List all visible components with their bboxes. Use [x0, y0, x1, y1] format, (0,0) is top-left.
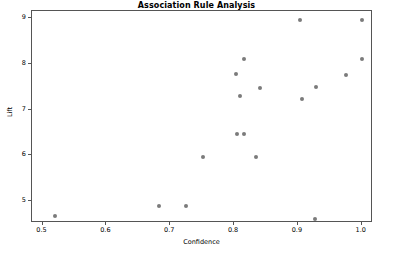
data-point: [201, 155, 205, 159]
x-axis-tick-mark: [361, 222, 362, 225]
y-axis-tick-label: 5: [14, 196, 26, 204]
data-point: [258, 86, 262, 90]
data-point: [242, 57, 246, 61]
data-point: [314, 85, 318, 89]
y-axis-tick-label: 7: [14, 105, 26, 113]
data-point: [360, 18, 364, 22]
data-point: [360, 57, 364, 61]
x-axis-tick-label: 0.6: [93, 226, 117, 234]
data-point: [53, 214, 57, 218]
plot-area: [31, 10, 372, 222]
y-axis-tick-mark: [28, 154, 31, 155]
x-axis-tick-mark: [233, 222, 234, 225]
data-point: [184, 204, 188, 208]
data-point: [300, 97, 304, 101]
data-point: [254, 155, 258, 159]
data-point: [157, 204, 161, 208]
x-axis-label: Confidence: [31, 238, 372, 246]
y-axis-label: Lift: [6, 92, 14, 132]
x-axis-tick-mark: [297, 222, 298, 225]
y-axis-tick-mark: [28, 63, 31, 64]
x-axis-tick-label: 0.5: [30, 226, 54, 234]
scatter-plot-figure: Association Rule Analysis Confidence Lif…: [0, 0, 393, 258]
x-axis-tick-label: 0.8: [221, 226, 245, 234]
y-axis-tick-mark: [28, 17, 31, 18]
data-point: [238, 94, 242, 98]
data-point: [313, 217, 317, 221]
x-axis-tick-label: 1.0: [349, 226, 373, 234]
y-axis-tick-label: 8: [14, 59, 26, 67]
y-axis-tick-label: 6: [14, 150, 26, 158]
data-point: [242, 132, 246, 136]
y-axis-tick-label: 9: [14, 13, 26, 21]
y-axis-tick-mark: [28, 200, 31, 201]
data-point: [234, 72, 238, 76]
chart-title: Association Rule Analysis: [0, 1, 393, 10]
x-axis-tick-label: 0.9: [285, 226, 309, 234]
data-point: [298, 18, 302, 22]
x-axis-tick-label: 0.7: [157, 226, 181, 234]
x-axis-tick-mark: [42, 222, 43, 225]
data-point: [235, 132, 239, 136]
x-axis-tick-mark: [105, 222, 106, 225]
y-axis-tick-mark: [28, 109, 31, 110]
x-axis-tick-mark: [169, 222, 170, 225]
data-point: [344, 73, 348, 77]
